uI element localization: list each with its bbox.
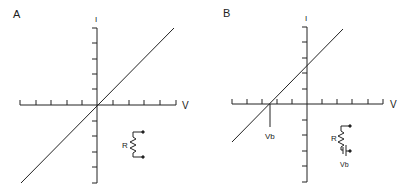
panel-a-resistor-label: R [122,141,128,150]
diagram-canvas: A I V R [0,0,413,193]
panel-a [20,28,176,183]
panel-b-label: B [223,7,230,19]
panel-b-y-axis-label: I [305,14,307,23]
resistor-battery-symbol [338,125,351,156]
panel-b-resistor-label: R [331,134,337,143]
x-ticks [20,100,176,105]
panel-a-x-axis-label: V [182,100,189,111]
panel-a-y-axis-label: I [95,15,97,24]
panel-b-x-axis-label: V [390,99,397,110]
panel-b [232,27,383,182]
panel-a-label: A [13,8,21,20]
iv-line [232,29,343,142]
resistor-symbol [130,131,144,158]
panel-b-battery-label: Vb [340,161,349,168]
panel-b-vb-label: Vb [265,132,275,141]
